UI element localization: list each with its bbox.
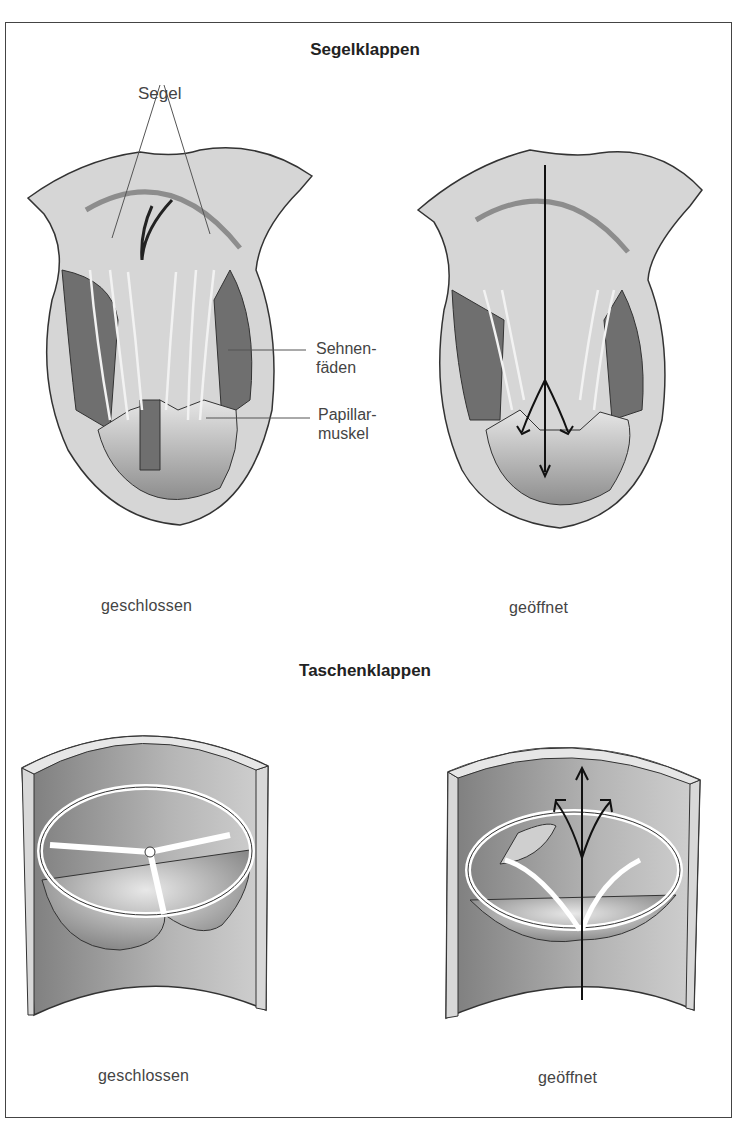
semilunar-valve-open — [446, 748, 700, 1018]
semilunar-valve-closed — [22, 736, 268, 1015]
caption-taschen-open: geöffnet — [538, 1069, 597, 1087]
av-valve-open — [418, 150, 702, 528]
caption-segel-open: geöffnet — [509, 599, 568, 617]
callout-segel: Segel — [138, 84, 181, 103]
section-title-taschenklappen: Taschenklappen — [0, 661, 730, 681]
caption-segel-closed: geschlossen — [101, 597, 192, 615]
caption-taschen-closed: geschlossen — [98, 1067, 189, 1085]
callout-sehnenfaeden: Sehnen- fäden — [316, 339, 377, 377]
callout-sehnenfaeden-line1: Sehnen- — [316, 339, 377, 358]
av-valve-closed — [28, 85, 312, 525]
callout-papillarmuskel-line1: Papillar- — [318, 405, 377, 424]
callout-sehnenfaeden-line2: fäden — [316, 358, 377, 377]
callout-papillarmuskel-line2: muskel — [318, 424, 377, 443]
section-title-segelklappen: Segelklappen — [0, 40, 730, 60]
callout-papillarmuskel: Papillar- muskel — [318, 405, 377, 443]
